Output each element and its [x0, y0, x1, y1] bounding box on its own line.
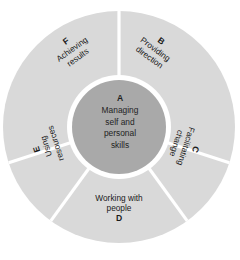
core-line-4: skills: [72, 140, 168, 151]
core-label: A Managing self and personal skills: [72, 93, 168, 151]
core-line-2: self and: [72, 117, 168, 128]
radial-wheel-diagram: A Managing self and personal skills B Pr…: [0, 0, 240, 260]
core-letter: A: [72, 93, 168, 104]
core-line-1: Managing: [72, 105, 168, 116]
core-line-3: personal: [72, 128, 168, 139]
